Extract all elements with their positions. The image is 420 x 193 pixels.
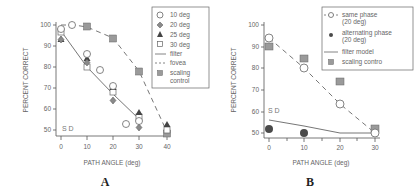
legend-filter-model: filter model [342,48,374,55]
10deg-markers [58,22,143,128]
y-tick-80: 80 [44,63,52,70]
y-tick-100: 100 [248,21,259,28]
y-axis-label: PERCENT CORRECT [22,48,29,113]
figure: 100 90 80 70 60 50 0 10 20 30 40 PATH AN… [0,0,420,193]
legend-30deg: 30 deg [170,41,190,49]
y-tick-70: 70 [44,84,52,91]
legend-fovea: fovea [170,59,186,66]
y-tick-90: 90 [252,43,260,50]
x-tick-30: 30 [135,143,143,150]
x-axis-label-b: PATH ANGLE (deg) [293,159,350,167]
legend-scaling: scaling [170,69,191,77]
x-tick-30: 30 [371,144,379,151]
x-axis-label: PATH ANGLE (deg) [84,159,141,167]
filter-line [61,31,139,119]
legend-25deg: 25 deg [170,31,190,39]
panel-b: 100 90 80 70 60 50 0 10 20 30 PATH ANGLE… [230,7,413,189]
x-tick-10: 10 [83,143,91,150]
legend-same-phase-deg: (20 deg) [342,18,366,26]
x-tick-40: 40 [163,143,171,150]
legend-gray-square-icon [158,71,163,76]
y-axis-label-b: PERCENT CORRECT [230,48,237,113]
legend-alternating-phase-deg: (20 deg) [342,36,366,44]
x-tick-20: 20 [109,143,117,150]
legend-gray-square-icon [329,60,334,65]
legend-control: control [170,77,190,84]
x-tick-10: 10 [300,144,308,151]
filter-model-line [269,120,375,133]
y-tick-50: 50 [44,126,52,133]
x-tick-0: 0 [59,143,63,150]
y-tick-70: 70 [252,86,260,93]
legend-10deg: 10 deg [170,11,190,19]
y-tick-60: 60 [252,108,260,115]
panel-label-a: A [101,175,110,189]
sd-label: S D [62,125,74,132]
x-tick-0: 0 [267,144,271,151]
legend-b: same phase (20 deg) alternating phase (2… [322,7,413,70]
legend-circle-icon [157,12,163,18]
y-tick-80: 80 [252,64,260,71]
sd-label-b: S D [268,107,280,114]
legend-scaling-control: scaling contro [342,58,382,66]
legend-square-icon [158,42,163,47]
legend-open-circle-icon [329,13,334,18]
20deg-markers [58,36,142,131]
y-tick-100: 100 [40,21,51,28]
panel-label-b: B [306,175,314,189]
legend-20deg: 20 deg [170,21,190,29]
legend-a: 10 deg 20 deg 25 deg 30 deg filter fovea… [152,7,209,88]
y-tick-50: 50 [252,129,260,136]
legend-filter: filter [170,50,183,57]
x-tick-20: 20 [336,144,344,151]
alternating-phase-markers [265,125,308,137]
y-tick-90: 90 [44,42,52,49]
legend-dark-circle-icon [329,33,333,37]
panel-a: 100 90 80 70 60 50 0 10 20 30 40 PATH AN… [22,7,209,189]
y-tick-60: 60 [44,105,52,112]
